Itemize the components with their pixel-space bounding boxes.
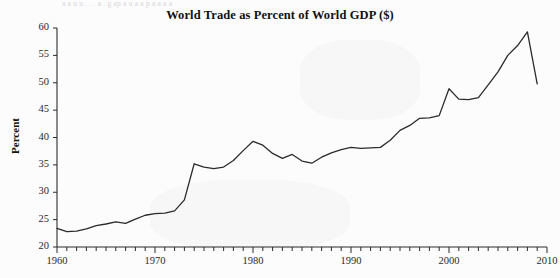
axes-group	[57, 28, 547, 247]
y-tick-label: 55	[23, 48, 49, 59]
x-tick-label: 1970	[132, 255, 178, 266]
chart-figure: a a u u . . . a . g ap a u a a p a a a a…	[0, 0, 560, 278]
y-tick-label: 25	[23, 213, 49, 224]
y-tick-label: 60	[23, 21, 49, 32]
y-tick-label: 30	[23, 185, 49, 196]
y-tick-label: 40	[23, 131, 49, 142]
y-tick-label: 35	[23, 158, 49, 169]
y-tick-label: 50	[23, 76, 49, 87]
y-tick-label: 20	[23, 240, 49, 251]
series-line-world-trade	[57, 32, 537, 232]
x-tick-label: 1980	[230, 255, 276, 266]
x-tick-label: 1960	[34, 255, 80, 266]
x-tick-label: 2010	[524, 255, 560, 266]
x-tick-label: 2000	[426, 255, 472, 266]
data-series-group	[57, 32, 537, 232]
tick-marks	[53, 28, 547, 253]
plot-area	[0, 0, 560, 278]
x-tick-label: 1990	[328, 255, 374, 266]
y-tick-label: 45	[23, 103, 49, 114]
